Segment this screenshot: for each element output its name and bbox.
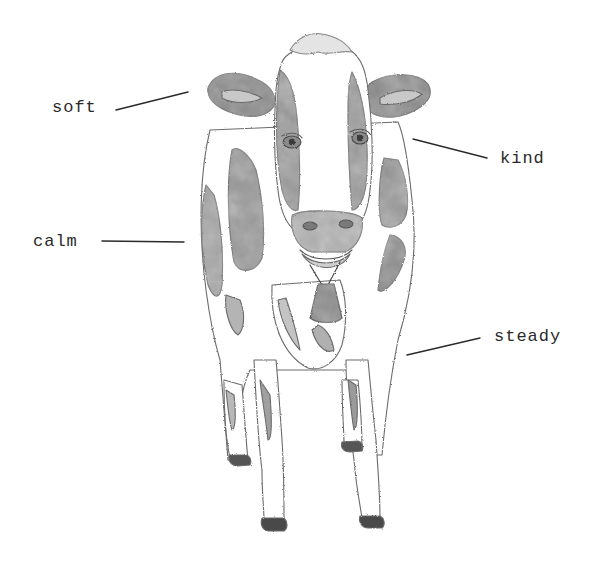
label-kind: kind bbox=[500, 150, 545, 167]
cow-nostril-right bbox=[339, 220, 353, 228]
leader-line-steady bbox=[407, 338, 480, 355]
leader-line-kind bbox=[413, 139, 487, 158]
cow-muzzle bbox=[292, 211, 363, 252]
leader-line-calm bbox=[102, 241, 184, 242]
label-soft: soft bbox=[52, 99, 97, 116]
cow-hoof bbox=[229, 455, 251, 466]
cow-hoof bbox=[261, 518, 287, 531]
illustration-canvas: soft kind calm steady bbox=[0, 0, 601, 569]
cow-nostril-left bbox=[303, 222, 317, 230]
cow-hoof bbox=[359, 516, 384, 528]
leader-line-soft bbox=[116, 92, 188, 110]
label-calm: calm bbox=[33, 233, 78, 250]
label-steady: steady bbox=[494, 328, 561, 345]
cow-illustration bbox=[0, 0, 601, 569]
cow-hoof bbox=[341, 441, 362, 452]
cow-forelock bbox=[290, 34, 352, 55]
